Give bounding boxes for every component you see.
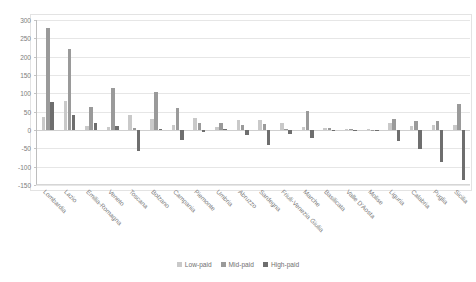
bar — [436, 121, 440, 130]
bar — [193, 118, 197, 130]
bar — [68, 49, 72, 130]
legend-swatch-icon — [177, 262, 182, 267]
bar — [64, 101, 68, 130]
bar-group — [59, 20, 81, 185]
bar — [432, 125, 436, 130]
x-axis-tick-label: Lazio — [64, 188, 80, 204]
bar-group — [102, 20, 124, 185]
bar — [371, 130, 375, 131]
y-axis-tick-label: 100 — [20, 90, 31, 97]
x-axis-tick-label: Bolzano — [150, 188, 171, 209]
y-axis-tick-label: -50 — [22, 145, 31, 152]
bar — [245, 130, 249, 135]
y-axis-tick-label: 300 — [20, 17, 31, 24]
bar — [332, 130, 336, 131]
x-axis-tick-label: Sardegna — [258, 188, 283, 213]
bar — [237, 120, 241, 130]
bar-group — [167, 20, 189, 185]
x-axis-tick-label: Toscana — [128, 188, 150, 210]
legend-item[interactable]: Mid-paid — [221, 261, 254, 268]
bar-group — [383, 20, 405, 185]
bar — [46, 28, 50, 130]
bar-chart: 300250200150100500-50-100-150 LombardiaL… — [0, 0, 476, 282]
y-axis-tick-label: -100 — [18, 163, 31, 170]
bar — [388, 123, 392, 130]
x-axis-tick-label: Marche — [302, 188, 322, 208]
bar-group — [80, 20, 102, 185]
bar-group — [124, 20, 146, 185]
bar — [302, 127, 306, 130]
y-axis-tick-label: 0 — [27, 127, 31, 134]
bar — [457, 104, 461, 130]
bar — [180, 130, 184, 140]
bar — [202, 130, 206, 132]
bar — [50, 102, 54, 130]
bar — [462, 130, 466, 180]
bar-group — [145, 20, 167, 185]
bar — [349, 129, 353, 130]
bar — [267, 130, 271, 145]
bar — [219, 123, 223, 130]
bar-group — [318, 20, 340, 185]
bar — [410, 126, 414, 130]
x-axis-labels: LombardiaLazioEmilia-RomagnaVenetoToscan… — [37, 188, 470, 248]
bar — [137, 130, 141, 151]
y-axis-tick-label: 250 — [20, 35, 31, 42]
x-axis-tick-label: Basilicata — [323, 188, 347, 212]
legend-label: Mid-paid — [229, 261, 254, 268]
bar-group — [405, 20, 427, 185]
x-axis-tick-label: Umbria — [215, 188, 235, 208]
bar — [353, 130, 357, 131]
bar-group — [362, 20, 384, 185]
bar — [414, 121, 418, 130]
bar — [85, 126, 89, 130]
bar — [375, 130, 379, 131]
bar — [280, 123, 284, 130]
gridline — [36, 185, 470, 186]
bar-series-layer — [37, 20, 470, 185]
bar — [198, 123, 202, 130]
x-axis-tick-label: Liguria — [388, 188, 407, 207]
bar — [263, 124, 267, 130]
bar-group — [254, 20, 276, 185]
bar — [107, 127, 111, 130]
y-axis-tick-label: 150 — [20, 72, 31, 79]
bar-group — [297, 20, 319, 185]
bar — [258, 120, 262, 130]
bar — [94, 123, 98, 130]
x-axis-tick-label: Puglia — [432, 188, 450, 206]
bar — [284, 129, 288, 130]
y-axis-tick-label: 50 — [24, 108, 31, 115]
legend-item[interactable]: Low-paid — [177, 261, 212, 268]
legend-item[interactable]: High-paid — [263, 261, 299, 268]
bar — [215, 127, 219, 130]
bar — [150, 119, 154, 130]
bar-group — [340, 20, 362, 185]
bar — [241, 125, 245, 131]
x-axis-tick-label: Molise — [367, 188, 385, 206]
bar — [288, 130, 292, 134]
x-axis-tick-label: Abruzzo — [237, 188, 259, 210]
bar — [223, 129, 227, 130]
bar — [115, 126, 119, 130]
bar — [397, 130, 401, 141]
bar — [172, 125, 176, 131]
legend-label: High-paid — [271, 261, 299, 268]
bar — [89, 107, 93, 130]
bar — [133, 128, 137, 130]
bar-group — [427, 20, 449, 185]
x-axis-tick-label: Sicilia — [453, 188, 470, 205]
legend-label: Low-paid — [185, 261, 212, 268]
y-axis: 300250200150100500-50-100-150 — [0, 20, 34, 185]
bar-group — [210, 20, 232, 185]
y-axis-tick-label: 200 — [20, 53, 31, 60]
x-axis-tick-label: Friuli-Venezia Giulia — [280, 188, 325, 233]
bar — [42, 117, 46, 130]
x-axis-tick-label: Calabria — [410, 188, 432, 210]
bar — [306, 111, 310, 130]
bar — [310, 130, 314, 138]
bar — [392, 119, 396, 130]
bar — [323, 128, 327, 130]
legend-swatch-icon — [221, 262, 226, 267]
bar — [418, 130, 422, 149]
